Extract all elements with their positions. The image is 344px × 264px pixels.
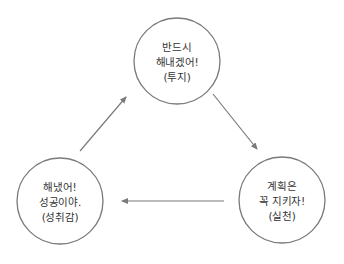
node-label-plan: 반드시 해내겠어! (투지): [134, 40, 220, 85]
node-label-execute: 계획은 꼭 지키자! (실천): [239, 179, 325, 224]
node-execute-line-3: (실천): [239, 209, 325, 224]
node-plan-line-2: 해내겠어!: [134, 55, 220, 70]
node-execute-line-2: 꼭 지키자!: [239, 194, 325, 209]
node-execute-line-1: 계획은: [239, 179, 325, 194]
node-achieve-line-3: (성취감): [17, 210, 103, 225]
node-plan-line-1: 반드시: [134, 40, 220, 55]
node-achieve-line-1: 해냈어!: [17, 180, 103, 195]
arrow-plan-to-execute: [213, 94, 257, 149]
node-label-achieve: 해냈어! 성공이야. (성취감): [17, 180, 103, 225]
node-plan-line-3: (투지): [134, 70, 220, 85]
arrow-achieve-to-plan: [80, 97, 126, 151]
node-achieve-line-2: 성공이야.: [17, 195, 103, 210]
